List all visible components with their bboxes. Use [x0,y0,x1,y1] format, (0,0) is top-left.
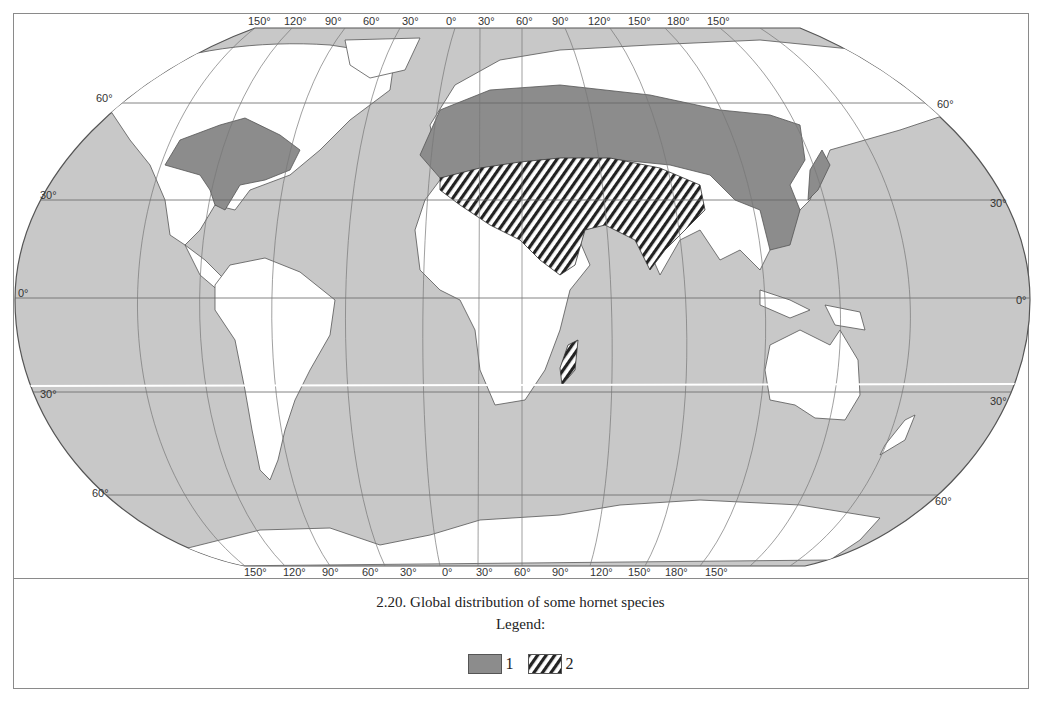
svg-text:150°: 150° [244,566,267,578]
legend-swatch-solid [468,654,502,674]
svg-text:180°: 180° [665,566,688,578]
svg-text:150°: 150° [628,15,651,27]
legend-item-2: 2 [528,654,574,674]
svg-text:0°: 0° [442,566,453,578]
svg-text:150°: 150° [628,566,651,578]
svg-text:0°: 0° [18,287,29,299]
svg-text:60°: 60° [362,566,379,578]
legend-label: 1 [506,655,514,673]
svg-text:60°: 60° [514,566,531,578]
svg-text:30°: 30° [402,15,419,27]
svg-text:0°: 0° [446,15,457,27]
figure-caption: 2.20. Global distribution of some hornet… [0,594,1041,611]
svg-text:120°: 120° [590,566,613,578]
svg-text:30°: 30° [478,15,495,27]
svg-text:150°: 150° [705,566,728,578]
svg-text:180°: 180° [667,15,690,27]
svg-text:90°: 90° [322,566,339,578]
svg-text:90°: 90° [325,15,342,27]
svg-text:60°: 60° [516,15,533,27]
svg-text:30°: 30° [40,189,57,201]
bottom-longitude-labels: 150° 120° 90° 60° 30° 0° 30° 60° 90° 120… [244,566,728,578]
svg-text:150°: 150° [707,15,730,27]
svg-text:0°: 0° [1016,294,1027,306]
legend-item-1: 1 [468,654,514,674]
svg-text:30°: 30° [990,395,1007,407]
world-map: 150° 120° 90° 60° 30° 0° 30° 60° 90° 120… [0,0,1041,580]
svg-text:60°: 60° [363,15,380,27]
svg-text:30°: 30° [40,388,57,400]
svg-text:120°: 120° [588,15,611,27]
svg-text:60°: 60° [935,495,952,507]
svg-text:60°: 60° [937,98,954,110]
svg-text:60°: 60° [92,487,109,499]
svg-text:90°: 90° [552,15,569,27]
svg-text:30°: 30° [400,566,417,578]
svg-text:150°: 150° [248,15,271,27]
legend-label: 2 [566,655,574,673]
svg-text:30°: 30° [990,197,1007,209]
top-longitude-labels: 150° 120° 90° 60° 30° 0° 30° 60° 90° 120… [248,15,730,27]
legend-swatch-hatched [528,654,562,674]
caption-separator [13,578,1029,579]
svg-text:90°: 90° [552,566,569,578]
legend-title: Legend: [0,616,1041,633]
svg-text:30°: 30° [476,566,493,578]
svg-text:120°: 120° [284,15,307,27]
svg-text:120°: 120° [283,566,306,578]
legend: 1 2 [0,654,1041,674]
svg-text:60°: 60° [96,92,113,104]
